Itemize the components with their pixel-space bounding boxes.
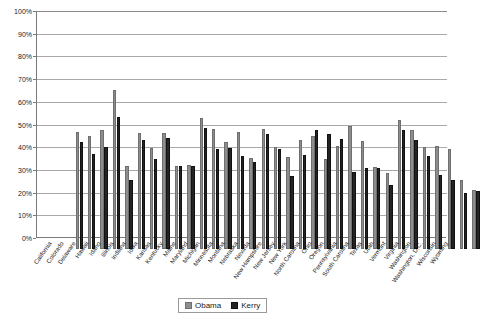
y-axis-tick-label: 30% <box>0 166 32 173</box>
bar-kerry <box>117 117 120 249</box>
bar-group <box>111 22 123 249</box>
bar-group <box>322 22 334 249</box>
bar-group <box>297 22 309 249</box>
bar-group <box>272 22 284 249</box>
bar-obama <box>100 130 103 249</box>
bar-obama <box>423 147 426 249</box>
bar-obama <box>249 158 252 249</box>
bar-obama <box>299 140 302 249</box>
bar-kerry <box>290 176 293 249</box>
bar-group <box>433 22 445 249</box>
bar-obama <box>398 120 401 249</box>
plot-area <box>36 11 446 238</box>
bar-group <box>285 22 297 249</box>
legend-swatch-kerry <box>231 302 238 309</box>
bar-group <box>347 22 359 249</box>
bar-kerry <box>92 154 95 249</box>
bar-series-container <box>74 22 483 249</box>
y-axis-tick-label: 0% <box>0 235 32 242</box>
bar-kerry <box>327 134 330 249</box>
bar-group <box>471 22 483 249</box>
bar-kerry <box>303 155 306 249</box>
bar-group <box>173 22 185 249</box>
legend-item-obama: Obama <box>185 301 221 310</box>
bar-obama <box>448 149 451 249</box>
bar-kerry <box>352 172 355 249</box>
bar-group <box>136 22 148 249</box>
bar-obama <box>386 173 389 249</box>
bar-kerry <box>204 128 207 249</box>
bar-obama <box>324 159 327 249</box>
bar-obama <box>460 180 463 249</box>
y-axis-tick-label: 40% <box>0 144 32 151</box>
legend-label-obama: Obama <box>195 301 221 310</box>
bar-kerry <box>216 149 219 249</box>
bar-group <box>223 22 235 249</box>
bar-kerry <box>241 156 244 249</box>
bar-kerry <box>439 175 442 249</box>
bar-obama <box>138 133 141 249</box>
bar-group <box>161 22 173 249</box>
bar-group <box>409 22 421 249</box>
legend-item-kerry: Kerry <box>231 301 260 310</box>
bar-kerry <box>365 168 368 249</box>
bar-kerry <box>476 191 479 249</box>
bar-group <box>371 22 383 249</box>
bar-group <box>210 22 222 249</box>
bar-obama <box>187 165 190 249</box>
bar-group <box>359 22 371 249</box>
bar-obama <box>113 90 116 249</box>
bar-kerry <box>142 140 145 249</box>
bar-group <box>260 22 272 249</box>
bar-kerry <box>414 140 417 249</box>
bar-group <box>99 22 111 249</box>
bar-obama <box>88 136 91 249</box>
bar-obama <box>125 166 128 249</box>
bar-obama <box>200 118 203 249</box>
bar-kerry <box>278 149 281 249</box>
bar-kerry <box>427 156 430 249</box>
y-axis-tick-label: 100% <box>0 8 32 15</box>
bar-obama <box>212 129 215 249</box>
gridline <box>37 11 447 12</box>
bar-obama <box>162 133 165 249</box>
chart-legend: Obama Kerry <box>178 298 267 313</box>
bar-group <box>198 22 210 249</box>
bar-kerry <box>228 148 231 249</box>
bar-kerry <box>191 166 194 249</box>
bar-obama <box>286 157 289 249</box>
y-axis: 100%90%80%70%60%50%40%30%20%10%0% <box>0 11 34 238</box>
bar-group <box>309 22 321 249</box>
legend-label-kerry: Kerry <box>241 301 260 310</box>
bar-obama <box>262 129 265 249</box>
bar-group <box>384 22 396 249</box>
bar-kerry <box>179 166 182 249</box>
bar-kerry <box>129 180 132 249</box>
bar-group <box>186 22 198 249</box>
bar-kerry <box>266 134 269 249</box>
y-axis-tick-label: 20% <box>0 189 32 196</box>
bar-group <box>248 22 260 249</box>
bar-kerry <box>166 138 169 249</box>
bar-obama <box>150 148 153 249</box>
y-axis-tick-label: 10% <box>0 212 32 219</box>
bar-obama <box>76 132 79 249</box>
bar-kerry <box>80 142 83 249</box>
bar-group <box>421 22 433 249</box>
bar-obama <box>237 132 240 249</box>
bar-kerry <box>154 159 157 249</box>
bar-kerry <box>402 130 405 249</box>
y-axis-tick-label: 80% <box>0 53 32 60</box>
bar-group <box>446 22 458 249</box>
y-axis-tick-label: 50% <box>0 121 32 128</box>
bar-group <box>396 22 408 249</box>
bar-group <box>458 22 470 249</box>
bar-kerry <box>315 130 318 249</box>
legend-swatch-obama <box>185 302 192 309</box>
bar-kerry <box>253 162 256 249</box>
bar-obama <box>410 130 413 249</box>
bar-kerry <box>464 193 467 249</box>
bar-group <box>334 22 346 249</box>
bar-group <box>74 22 86 249</box>
